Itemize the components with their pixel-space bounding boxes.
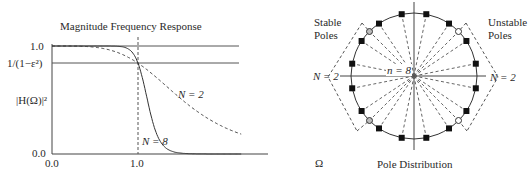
pole-square-marker (473, 85, 479, 91)
pole-square-marker (399, 135, 405, 141)
pole-square-marker (446, 125, 452, 131)
pole-ray (414, 76, 449, 128)
pole-ray (414, 76, 466, 111)
right-plot-title: Pole Distribution (377, 158, 452, 170)
pole-ray (414, 32, 459, 77)
y-tick-1: 1.0 (30, 40, 44, 52)
x-axis-label: Ω (315, 157, 323, 169)
pole-square-marker (463, 38, 469, 44)
stable-label-1: Stable (314, 16, 342, 28)
pole-square-marker (473, 61, 479, 67)
y-tick-passband: 1/(1−ε²) (7, 57, 43, 69)
pole-square-marker (359, 38, 365, 44)
pole-square-marker (463, 108, 469, 114)
unstable-label-1: Unstable (488, 16, 527, 28)
pole-ray (414, 76, 459, 121)
pole-square-marker (423, 135, 429, 141)
n-center-label: n = 8 (386, 64, 412, 76)
pole-circle-marker (367, 118, 373, 124)
pole-circle-marker (456, 29, 462, 35)
pole-square-marker (349, 61, 355, 67)
pole-square-marker (399, 11, 405, 17)
pole-circle-marker (456, 118, 462, 124)
stable-label-2: Poles (314, 29, 338, 41)
pole-ray (414, 41, 466, 76)
pole-circle-marker (367, 29, 373, 35)
unstable-label-2: Poles (488, 29, 512, 41)
left-plot-title: Magnitude Frequency Response (60, 20, 202, 32)
pole-square-marker (423, 11, 429, 17)
pole-ray (379, 76, 414, 128)
curve-n2 (52, 46, 241, 134)
pole-ray (414, 24, 449, 76)
x-tick-0: 0.0 (45, 157, 59, 169)
pole-ray (370, 76, 415, 121)
pole-square-marker (376, 21, 382, 27)
pole-distribution-plot (328, 2, 498, 150)
y-axis-label: |H(Ω)|² (16, 94, 47, 106)
n-right-label: N = 2 (490, 71, 516, 83)
y-tick-0: 0.0 (32, 147, 46, 159)
n-left-label: N = 2 (313, 70, 339, 82)
pole-square-marker (446, 21, 452, 27)
x-tick-1: 1.0 (130, 157, 144, 169)
pole-square-marker (359, 108, 365, 114)
curve-label-n8: N = 8 (142, 135, 168, 147)
pole-ray (362, 76, 414, 111)
pole-square-marker (349, 85, 355, 91)
curve-label-n2: N = 2 (178, 88, 204, 100)
pole-square-marker (376, 125, 382, 131)
